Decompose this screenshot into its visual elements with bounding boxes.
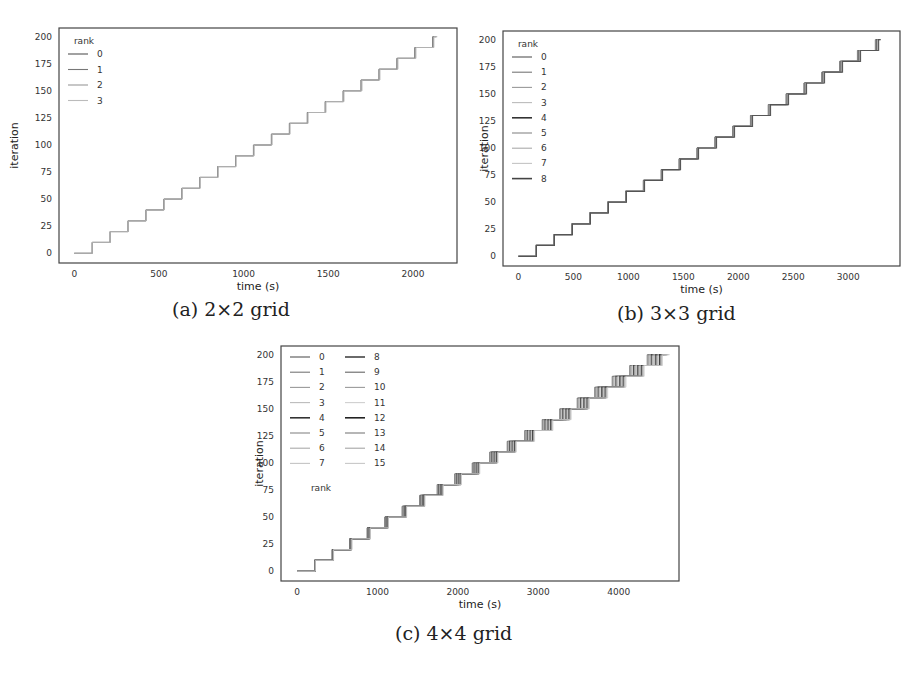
y-axis-label: iteration — [253, 440, 266, 486]
x-axis-label: time (s) — [459, 598, 502, 611]
legend-entry: 12 — [374, 413, 385, 423]
y-tick-label: 125 — [257, 431, 274, 441]
legend-entry: 9 — [374, 367, 380, 377]
legend-entry: 5 — [319, 428, 325, 438]
legend-entry: 14 — [374, 443, 386, 453]
y-tick-label: 0 — [268, 566, 274, 576]
legend-entry: 7 — [319, 458, 325, 468]
y-tick-label: 175 — [257, 377, 274, 387]
chart-caption: (c) 4×4 grid — [395, 622, 512, 644]
x-tick-label: 2000 — [446, 587, 469, 597]
legend-entry: 3 — [319, 398, 325, 408]
legend-entry: 15 — [374, 458, 385, 468]
legend: 0123456789101112131415rank — [290, 352, 386, 493]
legend-entry: 1 — [319, 367, 325, 377]
legend-entry: 0 — [319, 352, 325, 362]
x-tick-label: 0 — [294, 587, 300, 597]
chart-4x4-grid: 025507510012515017520001000200030004000t… — [0, 0, 921, 677]
legend-entry: 2 — [319, 382, 325, 392]
y-tick-label: 50 — [263, 512, 275, 522]
legend-title: rank — [311, 483, 332, 493]
legend-entry: 11 — [374, 398, 385, 408]
y-tick-label: 25 — [263, 539, 274, 549]
legend-entry: 4 — [319, 413, 325, 423]
x-tick-label: 3000 — [527, 587, 550, 597]
x-tick-label: 4000 — [607, 587, 630, 597]
legend-entry: 8 — [374, 352, 380, 362]
legend-entry: 10 — [374, 382, 386, 392]
y-tick-label: 200 — [257, 350, 274, 360]
legend-entry: 13 — [374, 428, 385, 438]
y-tick-label: 150 — [257, 404, 274, 414]
legend-entry: 6 — [319, 443, 325, 453]
chart-plot-area: 025507510012515017520001000200030004000t… — [0, 0, 921, 640]
x-tick-label: 1000 — [366, 587, 389, 597]
